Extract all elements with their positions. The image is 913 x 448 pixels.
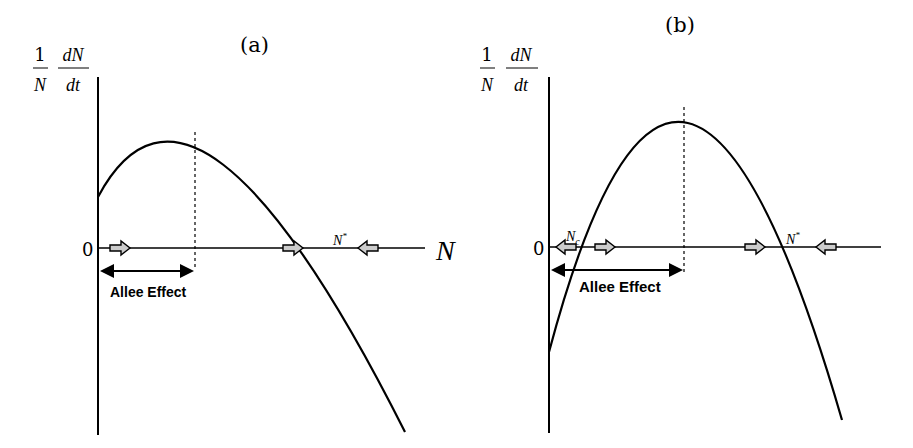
panel-a-x-axis-label: N — [435, 235, 456, 266]
y-label-denominator-n: N — [480, 75, 494, 95]
panel-a-flow-arrow-right-2 — [283, 241, 303, 255]
panel-b-zero-label: 0 — [533, 238, 544, 259]
panel-a: (a) 1 N dN dt 0 N N* — [33, 33, 456, 435]
y-label-denominator-dt: dt — [514, 75, 529, 95]
panel-b-equilibrium-label: N* — [785, 230, 800, 247]
panel-a-y-axis-label: 1 N dN dt — [33, 44, 89, 95]
panel-b: (b) 1 N dN dt 0 Nc N* — [480, 13, 881, 433]
y-label-numerator-dn: dN — [62, 45, 84, 65]
panel-a-allee-bracket — [100, 264, 194, 278]
panel-a-zero-label: 0 — [82, 239, 93, 260]
panel-a-equilibrium-label: N* — [332, 231, 347, 248]
y-label-numerator-1: 1 — [481, 44, 492, 65]
y-label-numerator-1: 1 — [34, 44, 45, 65]
y-label-denominator-dt: dt — [66, 75, 81, 95]
panel-b-y-axis-label: 1 N dN dt — [480, 44, 538, 95]
panel-b-flow-arrow-right-2 — [745, 240, 765, 254]
panel-b-flow-arrow-right-1 — [595, 240, 615, 254]
panel-b-allee-label: Allee Effect — [579, 278, 661, 295]
y-label-denominator-n: N — [33, 75, 47, 95]
y-label-numerator-dn: dN — [510, 45, 532, 65]
panel-a-flow-arrow-left — [358, 241, 378, 255]
panel-a-allee-label: Allee Effect — [110, 284, 187, 300]
panel-b-label: (b) — [665, 13, 695, 37]
allee-effect-figure: (a) 1 N dN dt 0 N N* — [0, 0, 913, 448]
panel-a-flow-arrow-right-1 — [110, 241, 130, 255]
panel-a-label: (a) — [240, 33, 269, 57]
panel-b-flow-arrow-left-2 — [816, 240, 836, 254]
